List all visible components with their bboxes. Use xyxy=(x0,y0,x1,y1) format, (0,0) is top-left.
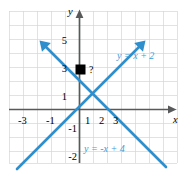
y-tick-label-5: 5 xyxy=(62,35,67,46)
intersection-point-marker xyxy=(76,65,86,75)
y-axis-label: y xyxy=(67,6,73,17)
grid xyxy=(9,11,178,164)
x-axis xyxy=(9,106,177,114)
y-tick-label-1: 1 xyxy=(62,91,67,102)
y-axis xyxy=(76,10,84,164)
y-tick-label-neg1: -1 xyxy=(68,123,77,134)
graph-figure: ? y x -3 -1 1 2 3 5 3 1 -1 -2 y = x + 2 … xyxy=(0,0,185,175)
x-tick-label-neg3: -3 xyxy=(18,115,27,126)
x-tick-label-1: 1 xyxy=(85,115,90,126)
x-tick-label-neg1: -1 xyxy=(46,115,55,126)
coordinate-plane: ? y x -3 -1 1 2 3 5 3 1 -1 -2 y = x + 2 … xyxy=(0,0,185,175)
x-tick-label-3: 3 xyxy=(113,115,118,126)
x-tick-label-2: 2 xyxy=(99,115,104,126)
line1-equation-label: y = x + 2 xyxy=(116,50,154,61)
intersection-query-label: ? xyxy=(89,64,94,75)
x-axis-label: x xyxy=(172,114,178,125)
y-tick-label-3: 3 xyxy=(62,63,67,74)
line2-equation-label: y = -x + 4 xyxy=(83,143,125,154)
y-tick-label-neg2: -2 xyxy=(68,151,77,162)
